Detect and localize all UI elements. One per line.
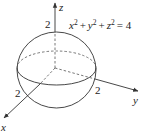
equator-back [17,51,96,68]
y-axis [95,79,138,91]
z-axis-label: z [58,1,64,13]
sphere-outline [17,32,96,108]
sphere-diagram: z y x 2 2 2 x2+y2+z2= 4 [0,0,150,138]
x-axis-hidden [40,68,55,84]
y-intercept-label: 2 [95,84,101,96]
x-intercept-label: 2 [15,87,21,99]
equator-front [17,68,96,85]
x-axis-label: x [0,121,6,133]
z-intercept-label: 2 [45,18,51,30]
sphere-equation: x2+y2+z2= 4 [68,18,132,31]
svg-text:x2+y2+z2= 4: x2+y2+z2= 4 [68,18,132,31]
y-axis-label: y [132,94,138,106]
